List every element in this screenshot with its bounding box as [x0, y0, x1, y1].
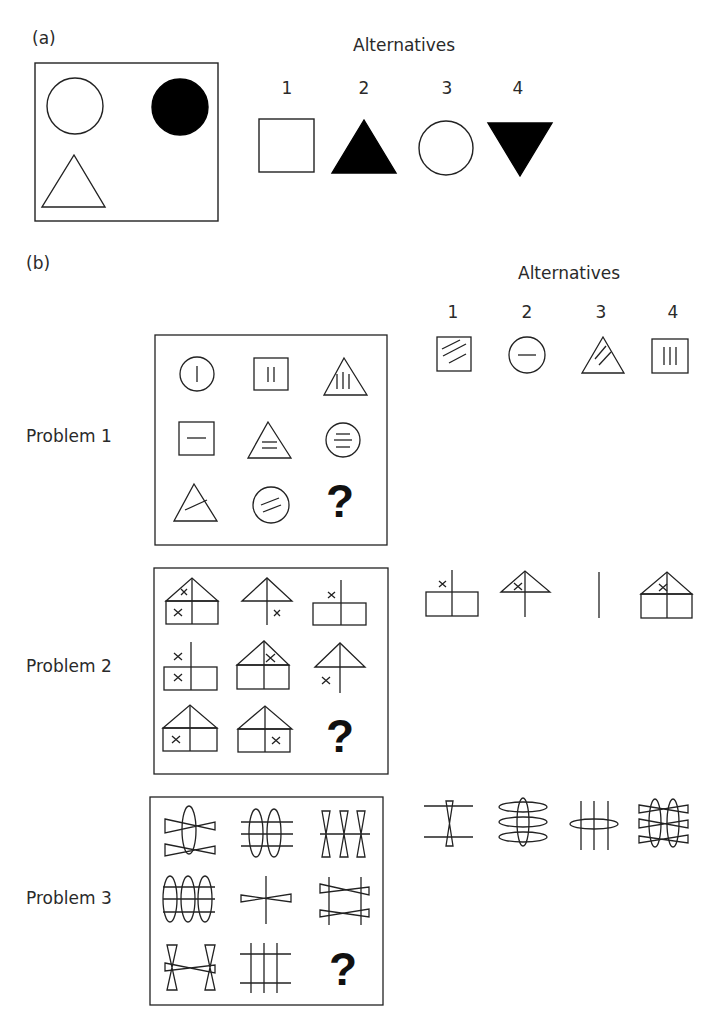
- problem-1-matrix: [155, 335, 387, 545]
- problem-3-alternatives: [424, 798, 688, 850]
- problem-2-matrix: [154, 568, 388, 774]
- problem-1-alternatives: [437, 337, 688, 373]
- problem-3-matrix: [150, 797, 383, 1005]
- part-b-figure: [0, 0, 723, 1029]
- problem-2-alternatives: [426, 570, 692, 618]
